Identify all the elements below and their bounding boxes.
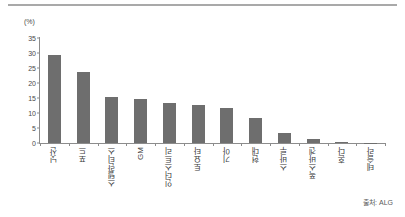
x-axis-category-label: 토요타 — [194, 147, 202, 171]
x-axis-tick-mark — [155, 143, 156, 146]
x-axis-category-label: 혼다 — [338, 147, 346, 163]
x-axis-tick-mark — [69, 143, 70, 146]
bar-chart-figure: (%) 35302520151050 닛산포드스텔란티스GM인더스트리토요타기아… — [0, 0, 405, 217]
bar-slot — [184, 38, 213, 143]
x-axis-category-slot: 인더스트리 — [155, 147, 184, 207]
bar-slot — [299, 38, 328, 143]
bar-slot — [155, 38, 184, 143]
x-axis-category-label: 포드 — [79, 147, 87, 163]
bar-series — [40, 38, 385, 143]
bar-slot — [356, 38, 385, 143]
x-axis-tick-mark — [270, 143, 271, 146]
x-axis-category-slot: 닛산 — [40, 147, 69, 207]
x-axis-tick-mark — [213, 143, 214, 146]
x-axis-category-label: 인더스트리 — [165, 147, 173, 187]
bar-slot — [40, 38, 69, 143]
bar-slot — [241, 38, 270, 143]
bar — [77, 72, 90, 143]
x-axis-category-slot: 기아 — [213, 147, 242, 207]
x-axis-category-label: 닛산 — [50, 147, 58, 163]
x-axis-tick-mark — [356, 143, 357, 146]
x-axis-tick-mark — [241, 143, 242, 146]
x-axis-tick-mark — [184, 143, 185, 146]
bar — [249, 118, 262, 144]
bar — [163, 103, 176, 144]
x-axis-category-slot: 현대 — [241, 147, 270, 207]
x-axis-category-slot: GM — [126, 147, 155, 207]
x-axis-category-slot: 토요타 — [184, 147, 213, 207]
x-axis-tick-mark — [126, 143, 127, 146]
bar — [105, 97, 118, 144]
bar — [134, 99, 147, 143]
x-axis-category-slot: 스바루 — [270, 147, 299, 207]
bar — [220, 108, 233, 143]
x-axis-category-label: 스바루 — [280, 147, 288, 171]
bar-slot — [213, 38, 242, 143]
x-axis-category-label: 폭스바겐 — [309, 147, 317, 179]
x-axis-category-slot: 폭스바겐 — [299, 147, 328, 207]
bar-slot — [98, 38, 127, 143]
x-axis-category-label: 현대 — [252, 147, 260, 163]
x-axis-category-label: 테슬라 — [367, 147, 375, 171]
bar — [192, 105, 205, 143]
bar — [48, 55, 61, 143]
top-divider-rule — [8, 4, 397, 6]
x-axis-category-label: 스텔란티스 — [108, 147, 116, 187]
bar-slot — [69, 38, 98, 143]
x-axis-tick-mark — [40, 143, 41, 146]
bar-slot — [328, 38, 357, 143]
bar-slot — [270, 38, 299, 143]
y-axis-unit-label: (%) — [24, 18, 35, 25]
bar-slot — [126, 38, 155, 143]
source-note: 출처: ALG — [363, 197, 393, 207]
x-axis-tick-mark — [98, 143, 99, 146]
x-axis-tick-mark — [328, 143, 329, 146]
bar — [278, 133, 291, 144]
x-axis-category-slot: 스텔란티스 — [98, 147, 127, 207]
x-axis-category-label: GM — [137, 147, 145, 160]
x-axis-tick-mark — [299, 143, 300, 146]
x-axis-category-labels: 닛산포드스텔란티스GM인더스트리토요타기아현대스바루폭스바겐혼다테슬라 — [40, 147, 385, 207]
x-axis-tick-mark — [385, 143, 386, 146]
x-axis-category-slot: 포드 — [69, 147, 98, 207]
x-axis-category-label: 기아 — [223, 147, 231, 163]
x-axis-category-slot: 혼다 — [328, 147, 357, 207]
